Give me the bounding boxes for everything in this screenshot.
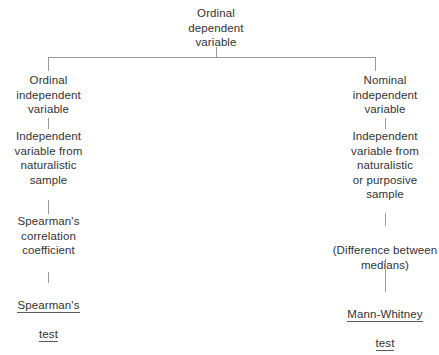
node-difference-between-medians: (Difference between medians): [322, 243, 439, 272]
spearmans-test-line1: Spearman's: [17, 298, 79, 313]
connector-left-1: [48, 118, 49, 129]
connector-root-stem: [216, 47, 217, 57]
node-ordinal-independent-variable: Ordinal independent variable: [0, 73, 97, 117]
node-right-independent-variable-naturalistic-or-purposive-sample: Independent variable from naturalistic o…: [322, 129, 439, 202]
node-ordinal-dependent-variable: Ordinal dependent variable: [146, 6, 286, 50]
node-nominal-independent-variable: Nominal independent variable: [322, 73, 439, 117]
mann-whitney-test-line2: test: [376, 336, 395, 351]
node-left-independent-variable-naturalistic-sample: Independent variable from naturalistic s…: [0, 129, 97, 187]
node-spearmans-correlation-coefficient: Spearman's correlation coefficient: [0, 214, 97, 258]
connector-left-2: [48, 200, 49, 214]
node-mann-whitney-test: Mann-Whitney test: [322, 292, 439, 355]
connector-bracket-bar: [48, 57, 376, 58]
connector-bracket-leg-left: [48, 57, 49, 71]
connector-right-3: [385, 259, 386, 292]
connector-right-1: [385, 118, 386, 129]
connector-right-2: [385, 213, 386, 226]
spearmans-test-line2: test: [39, 327, 58, 342]
node-spearmans-test: Spearman's test: [0, 283, 97, 355]
mann-whitney-test-line1: Mann-Whitney: [347, 307, 422, 322]
connector-left-3: [48, 272, 49, 283]
connector-bracket-leg-right: [375, 57, 376, 71]
